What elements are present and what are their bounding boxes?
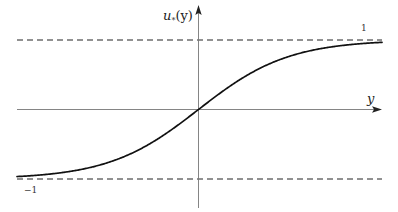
y-axis-label-argument: (y) xyxy=(175,8,193,23)
y-axis-label: u*(y) xyxy=(163,8,193,25)
x-axis-label: y xyxy=(366,91,375,106)
y-axis-label-base: u xyxy=(163,8,171,23)
upper-asymptote-label: 1 xyxy=(361,23,367,33)
sigmoid-diagram: u*(y) y 1 −1 xyxy=(0,0,398,212)
lower-asymptote-label: −1 xyxy=(24,185,37,195)
